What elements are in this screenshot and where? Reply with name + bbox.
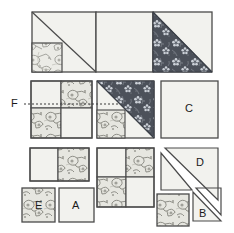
bottom-row-group: [22, 148, 221, 226]
label-a: A: [72, 200, 79, 211]
label-c: C: [185, 103, 193, 114]
top-left-floral-corner[interactable]: [32, 43, 62, 72]
middle-floral-corner[interactable]: [97, 110, 125, 138]
top-left-unit[interactable]: [32, 12, 96, 72]
top-right-unit[interactable]: [153, 12, 212, 72]
top-middle-unit[interactable]: [96, 12, 153, 72]
label-b: B: [199, 208, 206, 219]
label-e: E: [35, 200, 42, 211]
triangle-pair-d[interactable]: [161, 148, 218, 200]
four-patch-left[interactable]: [31, 81, 92, 138]
square-floral-small[interactable]: [157, 194, 189, 226]
two-patch-rectangle[interactable]: [30, 148, 89, 181]
label-d: D: [196, 157, 204, 168]
hst-dark-unit[interactable]: [97, 81, 154, 138]
four-patch-bottom[interactable]: [97, 148, 154, 207]
top-row-group: [32, 12, 212, 72]
label-f: F: [11, 98, 18, 109]
quilt-layout-diagram: F C D E A B: [0, 0, 234, 233]
